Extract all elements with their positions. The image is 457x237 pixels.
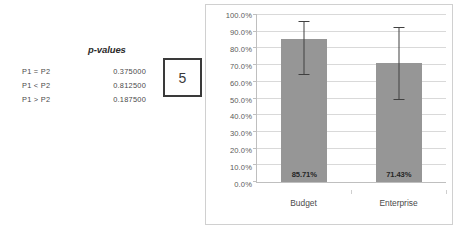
- p-values-table-body: P1 = P2 0.375000 P1 < P2 0.812500 P1 > P…: [0, 64, 170, 107]
- y-axis-tick-label: 50.0%: [210, 95, 252, 104]
- y-axis-tick-label: 100.0%: [210, 11, 252, 20]
- y-axis-tick-label: 20.0%: [210, 146, 252, 155]
- table-row: P1 < P2 0.812500: [0, 78, 170, 92]
- p-value-cell: 0.375000: [80, 64, 170, 78]
- chart-plot-wrapper: 0.0%10.0%20.0%30.0%40.0%50.0%60.0%70.0%8…: [206, 5, 452, 224]
- bar-slot: 71.43%: [352, 15, 447, 182]
- chart-panel: 0.0%10.0%20.0%30.0%40.0%50.0%60.0%70.0%8…: [205, 4, 453, 225]
- hypothesis-label: P1 < P2: [0, 78, 80, 92]
- y-axis-tick-label: 30.0%: [210, 129, 252, 138]
- error-bar-cap-top: [393, 27, 404, 28]
- error-bar: [393, 27, 404, 100]
- error-bar-stem: [304, 21, 305, 75]
- bar-data-label: 71.43%: [376, 170, 422, 179]
- y-axis-tick-label: 60.0%: [210, 78, 252, 87]
- x-axis-tick-label: Budget: [290, 198, 317, 208]
- p-values-block: p-values P1 = P2 0.375000 P1 < P2 0.8125…: [0, 38, 185, 133]
- y-axis-tick-labels: 0.0%10.0%20.0%30.0%40.0%50.0%60.0%70.0%8…: [210, 5, 252, 224]
- p-value-cell: 0.187500: [80, 92, 170, 106]
- x-axis-tick-labels: BudgetEnterprise: [256, 190, 446, 210]
- p-values-table: P1 = P2 0.375000 P1 < P2 0.812500 P1 > P…: [0, 64, 170, 107]
- p-value-cell: 0.812500: [80, 78, 170, 92]
- figure-number-box: 5: [163, 58, 202, 97]
- hypothesis-label: P1 = P2: [0, 64, 80, 78]
- x-axis-tick-label: Enterprise: [379, 198, 417, 208]
- chart-plot-area: 85.71%71.43%: [256, 15, 446, 183]
- y-axis-tick-label: 90.0%: [210, 27, 252, 36]
- table-row: P1 = P2 0.375000: [0, 64, 170, 78]
- bar-data-label: 85.71%: [281, 170, 327, 179]
- error-bar-cap-top: [299, 21, 310, 22]
- y-axis-tick-label: 10.0%: [210, 163, 252, 172]
- x-axis-tickmark: [351, 190, 352, 194]
- table-row: P1 > P2 0.187500: [0, 92, 170, 106]
- y-axis-tick-label: 80.0%: [210, 44, 252, 53]
- bar-slot: 85.71%: [257, 15, 352, 182]
- error-bar-cap-bottom: [393, 99, 404, 100]
- p-values-header: p-values: [88, 44, 126, 55]
- x-axis-tickmark: [446, 190, 447, 194]
- y-axis-tick-label: 0.0%: [210, 180, 252, 189]
- error-bar-stem: [398, 27, 399, 100]
- hypothesis-label: P1 > P2: [0, 92, 80, 106]
- y-axis-tick-label: 40.0%: [210, 112, 252, 121]
- y-axis-tick-label: 70.0%: [210, 61, 252, 70]
- error-bar: [299, 21, 310, 75]
- error-bar-cap-bottom: [299, 74, 310, 75]
